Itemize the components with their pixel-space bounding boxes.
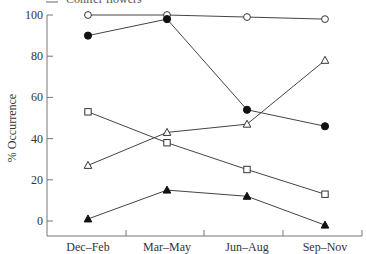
y-axis-title: % Occurrence [5,94,19,162]
data-point-triangle [163,186,171,193]
y-tick-label: 80 [31,49,43,63]
data-point-circle [321,123,328,130]
data-point-circle [85,12,92,19]
series-line [88,112,325,194]
line-chart: Conifer flowers 020406080100Dec–FebMar–M… [0,0,366,254]
data-point-circle [84,32,91,39]
data-point-circle [243,106,250,113]
y-tick-label: 100 [25,8,43,22]
y-tick-label: 40 [31,132,43,146]
legend-label: Conifer flowers [66,0,142,6]
series-circle-filled [84,16,328,130]
series-circle-open [85,12,329,23]
series-line [88,190,325,225]
data-point-triangle [243,120,251,127]
series-line [88,15,325,19]
x-tick-label: Sep–Nov [303,240,348,254]
x-tick-label: Jun–Aug [225,240,268,254]
x-tick-label: Mar–May [143,240,191,254]
legend: Conifer flowers [46,0,142,6]
y-tick-label: 60 [31,90,43,104]
data-point-square [85,109,91,115]
series-triangle-filled [84,186,329,228]
x-tick-label: Dec–Feb [66,240,109,254]
series-line [88,60,325,165]
data-point-triangle [84,161,92,168]
data-point-square [244,166,250,172]
data-point-circle [322,16,329,23]
series-line [88,19,325,126]
data-point-circle [163,16,170,23]
data-point-triangle [321,56,329,63]
data-point-square [164,140,170,146]
series-group [84,12,329,229]
series-triangle-open [84,56,329,168]
series-square-open [85,109,328,198]
data-point-square [322,191,328,197]
axes: 020406080100Dec–FebMar–MayJun–AugSep–Nov [25,8,362,254]
y-tick-label: 20 [31,173,43,187]
y-tick-label: 0 [37,214,43,228]
data-point-circle [244,14,251,21]
